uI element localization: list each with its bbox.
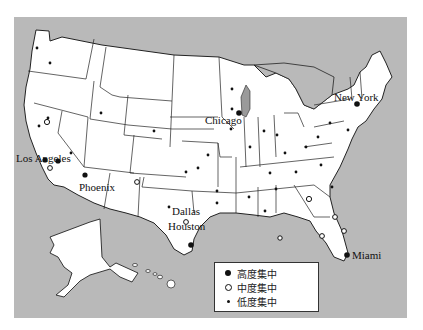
legend-label: 高度集中 (237, 266, 277, 281)
city-label-miami: Miami (352, 250, 381, 261)
alaska (50, 219, 138, 297)
hollow-circle-icon (223, 284, 233, 291)
map-legend: 高度集中 中度集中 低度集中 (214, 262, 319, 312)
hawaii (133, 264, 176, 289)
us-map (14, 17, 407, 318)
legend-label: 低度集中 (237, 294, 277, 309)
city-label-phoenix: Phoenix (79, 182, 115, 193)
city-label-dallas: Dallas (172, 206, 200, 217)
city-label-chicago: Chicago (205, 115, 242, 126)
map-frame: Los Angeles Phoenix Chicago New York Dal… (14, 17, 407, 318)
city-label-los-angeles: Los Angeles (16, 153, 71, 164)
city-label-houston: Houston (168, 221, 205, 232)
legend-label: 中度集中 (237, 280, 277, 295)
city-label-new-york: New York (334, 92, 379, 103)
legend-item-high: 高度集中 (223, 266, 318, 280)
legend-item-mid: 中度集中 (223, 280, 318, 294)
small-dot-icon (223, 300, 233, 303)
legend-item-low: 低度集中 (223, 294, 318, 308)
filled-dot-icon (223, 270, 233, 276)
